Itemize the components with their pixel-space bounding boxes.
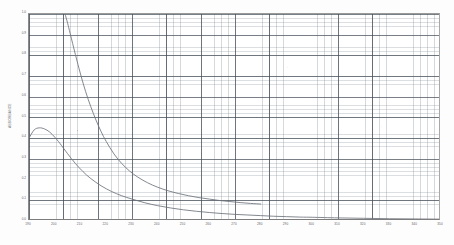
x-tick-label: 350 xyxy=(437,223,442,226)
x-tick-label: 190 xyxy=(25,223,30,226)
y-tick-label: 0.2 xyxy=(22,177,26,180)
series-line-upper xyxy=(65,14,261,204)
x-tick-label: 320 xyxy=(360,223,365,226)
data-curves xyxy=(29,14,440,220)
x-tick-label: 230 xyxy=(128,223,133,226)
y-tick-label: 0.1 xyxy=(22,198,26,201)
x-tick-label: 270 xyxy=(231,223,236,226)
y-tick-label: 0.8 xyxy=(22,53,26,56)
y-tick-label: 0.7 xyxy=(22,74,26,77)
x-tick-label: 310 xyxy=(334,223,339,226)
y-tick-label: 0.9 xyxy=(22,32,26,35)
x-tick-label: 210 xyxy=(77,223,82,226)
absorbance-spectrum-chart: ABSORBANCE 0.00.10.20.30.40.50.60.70.80.… xyxy=(0,0,454,245)
x-tick-label: 290 xyxy=(283,223,288,226)
x-tick-label: 300 xyxy=(309,223,314,226)
x-tick-label: 220 xyxy=(103,223,108,226)
plot-area xyxy=(28,13,440,220)
y-axis-tick-labels: 0.00.10.20.30.40.50.60.70.80.91.0 xyxy=(0,13,26,220)
x-tick-label: 240 xyxy=(154,223,159,226)
y-tick-label: 0.5 xyxy=(22,115,26,118)
x-tick-label: 330 xyxy=(386,223,391,226)
x-tick-label: 280 xyxy=(257,223,262,226)
x-axis-tick-labels: 1902002102202302402502602702802903003103… xyxy=(28,223,440,231)
x-tick-label: 260 xyxy=(206,223,211,226)
y-tick-label: 0.6 xyxy=(22,94,26,97)
series-line-lower xyxy=(29,128,440,219)
x-tick-label: 250 xyxy=(180,223,185,226)
x-tick-label: 340 xyxy=(412,223,417,226)
y-tick-label: 0.4 xyxy=(22,136,26,139)
y-tick-label: 0.3 xyxy=(22,156,26,159)
y-tick-label: 1.0 xyxy=(22,11,26,14)
x-tick-label: 200 xyxy=(51,223,56,226)
